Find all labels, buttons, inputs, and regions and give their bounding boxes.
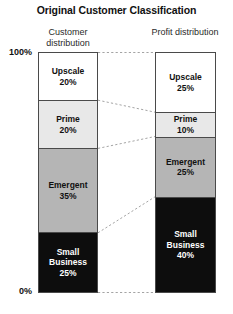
chart-container: Original Customer Classification Custome… xyxy=(0,0,233,314)
segment-label: Upscale xyxy=(169,72,202,83)
axis-tick-0-percent: 0% xyxy=(2,286,32,296)
segment-value: 25% xyxy=(177,167,194,178)
segment-label: Upscale xyxy=(52,66,85,77)
connector-upscale-prime xyxy=(98,100,155,112)
bar-segment-profit-prime: Prime 10% xyxy=(156,112,215,137)
segment-value: 20% xyxy=(59,77,76,88)
segment-value: 40% xyxy=(177,250,194,261)
bar-segment-customer-small-business: Small Business 25% xyxy=(39,232,97,292)
segment-value: 25% xyxy=(177,83,194,94)
column-header-profit-distribution: Profit distribution xyxy=(146,27,224,38)
stacked-bar-customer-distribution: Upscale 20% Prime 20% Emergent 35% Small… xyxy=(38,52,98,293)
connector-emergent-small xyxy=(98,197,155,233)
segment-value: 35% xyxy=(59,191,76,202)
bar-segment-profit-upscale: Upscale 25% xyxy=(156,53,215,112)
bar-segment-customer-emergent: Emergent 35% xyxy=(39,148,97,232)
chart-title: Original Customer Classification xyxy=(0,4,233,16)
segment-value: 20% xyxy=(59,125,76,136)
axis-tick-100-percent: 100% xyxy=(2,47,32,57)
bar-segment-profit-emergent: Emergent 25% xyxy=(156,137,215,197)
segment-label: Emergent xyxy=(48,180,87,191)
bar-segment-customer-prime: Prime 20% xyxy=(39,100,97,148)
segment-label: Small Business xyxy=(49,247,87,268)
column-header-customer-distribution: Customer distribution xyxy=(30,27,106,48)
segment-value: 25% xyxy=(59,268,76,279)
segment-value: 10% xyxy=(177,125,194,136)
bar-segment-profit-small-business: Small Business 40% xyxy=(156,197,215,292)
stacked-bar-profit-distribution: Upscale 25% Prime 10% Emergent 25% Small… xyxy=(155,52,216,293)
segment-label: Prime xyxy=(174,114,198,125)
segment-label: Prime xyxy=(56,114,80,125)
segment-label: Emergent xyxy=(166,157,205,168)
connector-prime-emergent xyxy=(98,137,155,149)
bar-segment-customer-upscale: Upscale 20% xyxy=(39,53,97,100)
segment-label: Small Business xyxy=(167,229,205,250)
